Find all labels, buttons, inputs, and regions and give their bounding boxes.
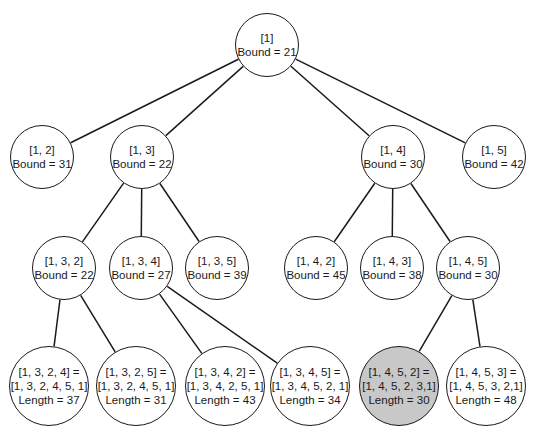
tree-node: [1, 3, 2, 5] =[1, 3, 2, 4, 5, 1]Length =… xyxy=(96,346,176,426)
node-label-line: Bound = 30 xyxy=(438,268,497,282)
node-label-line: Length = 43 xyxy=(194,393,255,407)
node-label-line: [1, 4, 5, 2, 3,1] xyxy=(362,379,436,393)
node-label-line: Bound = 21 xyxy=(237,45,296,59)
tree-edge xyxy=(160,184,199,242)
node-label-line: [1, 4, 3] xyxy=(373,254,411,268)
tree-node: [1, 3, 4, 2] =[1, 3, 4, 2, 5, 1]Length =… xyxy=(185,346,265,426)
node-label-line: [1, 3, 4, 5, 2, 1] xyxy=(272,379,349,393)
node-label-line: Bound = 22 xyxy=(34,268,93,282)
node-label-line: [1, 3, 2] xyxy=(45,254,83,268)
node-label-line: [1, 3, 4, 5] = xyxy=(279,365,340,379)
tree-edge xyxy=(473,300,480,347)
node-label-line: [1, 3] xyxy=(129,143,155,157)
tree-edge xyxy=(54,300,60,347)
tree-node: [1, 2]Bound = 31 xyxy=(10,125,74,189)
node-label-line: Bound = 31 xyxy=(12,157,71,171)
node-label-line: Bound = 38 xyxy=(362,268,421,282)
node-label-line: Length = 37 xyxy=(18,393,79,407)
tree-edge xyxy=(411,184,450,242)
node-label-line: [1] xyxy=(261,31,274,45)
tree-node: [1, 4, 5, 3] =[1, 4, 5, 3, 2,1]Length = … xyxy=(446,346,526,426)
tree-edge xyxy=(82,183,123,242)
tree-node: [1, 3, 5]Bound = 39 xyxy=(185,236,249,300)
node-label-line: Bound = 30 xyxy=(363,157,422,171)
tree-node-optimal: [1, 4, 5, 2] =[1, 4, 5, 2, 3,1]Length = … xyxy=(359,346,439,426)
tree-node: [1, 3, 4]Bound = 27 xyxy=(109,236,173,300)
node-label-line: [1, 3, 2, 4, 5, 1] xyxy=(98,379,175,393)
node-label-line: [1, 5] xyxy=(481,143,507,157)
tree-node: [1, 3, 4, 5] =[1, 3, 4, 5, 2, 1]Length =… xyxy=(270,346,350,426)
tree-edge xyxy=(419,296,452,352)
tree-node: [1, 4, 3]Bound = 38 xyxy=(360,236,424,300)
tree-node: [1, 4]Bound = 30 xyxy=(361,125,425,189)
tree-edge xyxy=(334,183,375,241)
tree-node: [1, 3]Bound = 22 xyxy=(110,125,174,189)
node-label-line: [1, 4] xyxy=(380,143,406,157)
tree-node: [1, 4, 2]Bound = 45 xyxy=(284,236,348,300)
tree-node: [1, 5]Bound = 42 xyxy=(462,125,526,189)
node-label-line: [1, 4, 5, 3, 2,1] xyxy=(449,379,523,393)
tree-node: [1, 3, 2]Bound = 22 xyxy=(32,236,96,300)
node-label-line: [1, 3, 2, 4] = xyxy=(18,365,79,379)
node-label-line: [1, 4, 5, 3] = xyxy=(455,365,516,379)
tree-node: [1, 3, 2, 4] =[1, 3, 2, 4, 5, 1]Length =… xyxy=(9,346,89,426)
node-label-line: [1, 4, 2] xyxy=(297,254,335,268)
tree-node: [1]Bound = 21 xyxy=(235,13,299,77)
node-label-line: Bound = 39 xyxy=(187,268,246,282)
node-label-line: [1, 3, 2, 4, 5, 1] xyxy=(11,379,88,393)
node-label-line: [1, 3, 4, 2, 5, 1] xyxy=(187,379,264,393)
node-label-line: Length = 30 xyxy=(368,393,429,407)
node-label-line: Length = 31 xyxy=(105,393,166,407)
node-label-line: [1, 3, 4, 2] = xyxy=(194,365,255,379)
node-label-line: Bound = 42 xyxy=(464,157,523,171)
tree-edge xyxy=(81,295,115,352)
node-label-line: [1, 2] xyxy=(29,143,55,157)
node-label-line: Length = 34 xyxy=(279,393,340,407)
tree-node: [1, 4, 5]Bound = 30 xyxy=(436,236,500,300)
node-label-line: Bound = 22 xyxy=(112,157,171,171)
node-label-line: Bound = 45 xyxy=(286,268,345,282)
tree-edge xyxy=(160,294,202,353)
node-label-line: [1, 3, 5] xyxy=(198,254,236,268)
node-label-line: [1, 3, 2, 5] = xyxy=(105,365,166,379)
node-label-line: Length = 48 xyxy=(455,393,516,407)
node-label-line: [1, 4, 5, 2] = xyxy=(368,365,429,379)
node-label-line: [1, 3, 4] xyxy=(122,254,160,268)
node-label-line: Bound = 27 xyxy=(111,268,170,282)
node-label-line: [1, 4, 5] xyxy=(449,254,487,268)
state-space-tree: [1]Bound = 21[1, 2]Bound = 31[1, 3]Bound… xyxy=(0,0,537,439)
